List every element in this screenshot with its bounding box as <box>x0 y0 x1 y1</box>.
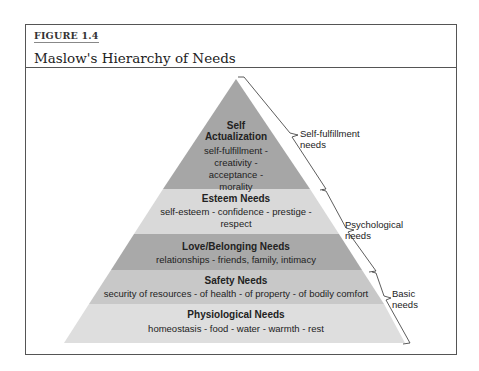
level-title: Actualization <box>176 131 296 142</box>
level-description: relationships - friends, family, intimac… <box>116 254 356 266</box>
group-self-fulfillment: Self-fulfillment needs <box>300 128 360 150</box>
level-esteem: Esteem Needs self-esteem - confidence - … <box>136 193 336 230</box>
level-title: Love/Belonging Needs <box>116 241 356 252</box>
level-description: security of resources - of health - of p… <box>86 288 386 300</box>
group-label: Basic <box>392 288 418 299</box>
level-title: Esteem Needs <box>136 193 336 204</box>
level-safety: Safety Needs security of resources - of … <box>86 275 386 300</box>
group-basic: Basic needs <box>392 288 418 310</box>
level-description: acceptance - <box>176 169 296 181</box>
group-label: needs <box>300 139 360 150</box>
level-title: Safety Needs <box>86 275 386 286</box>
group-label: Psychological <box>345 219 403 230</box>
level-self-actualization: Self Actualization self-fulfillment - cr… <box>176 120 296 193</box>
level-love-belonging: Love/Belonging Needs relationships - fri… <box>116 241 356 266</box>
level-description: creativity - <box>176 157 296 169</box>
level-physiological: Physiological Needs homeostasis - food -… <box>116 309 356 335</box>
level-description: morality <box>176 181 296 193</box>
level-title: Self <box>176 120 296 131</box>
level-description: self-fulfillment - <box>176 145 296 157</box>
group-psychological: Psychological needs <box>345 219 403 241</box>
level-title: Physiological Needs <box>116 309 356 320</box>
level-description: respect <box>136 218 336 230</box>
level-description: homeostasis - food - water - warmth - re… <box>116 323 356 335</box>
group-label: needs <box>392 299 418 310</box>
group-label: Self-fulfillment <box>300 128 360 139</box>
level-description: self-esteem - confidence - prestige - <box>136 206 336 218</box>
group-label: needs <box>345 230 403 241</box>
